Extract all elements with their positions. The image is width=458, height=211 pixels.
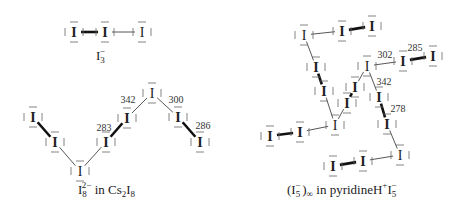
bond-length-label: 342 xyxy=(121,94,136,105)
bond-length-label: 286 xyxy=(196,120,211,131)
iodine-atom: I xyxy=(267,129,272,144)
iodine-atom: I xyxy=(124,111,129,126)
iodine-atom: I xyxy=(400,54,405,69)
caption-i8: I82− in Cs2I8 xyxy=(78,180,136,199)
iodine-atom: I xyxy=(360,154,365,169)
iodine-atom: I xyxy=(197,135,202,150)
iodine-atom: I xyxy=(71,25,76,40)
bond-length-label: 342 xyxy=(377,76,392,87)
iodine-atom: I xyxy=(333,118,338,133)
iodine-atom: I xyxy=(30,110,35,125)
iodine-atom: I xyxy=(384,117,389,132)
bond-thin xyxy=(338,109,343,119)
bond-thick xyxy=(381,104,385,118)
iodine-atom: I xyxy=(376,90,381,105)
bond-length-label: 302 xyxy=(378,49,393,60)
iodine-atom: I xyxy=(102,25,107,40)
bond-length-label: 300 xyxy=(169,94,184,105)
bond-thin xyxy=(307,126,328,130)
iodine-atom: I xyxy=(352,80,357,95)
bond-thin xyxy=(60,147,76,165)
iodine-atom: I xyxy=(175,110,180,125)
bond-thin xyxy=(358,72,363,81)
bond-length-label: 285 xyxy=(408,42,423,53)
iodine-atom: I xyxy=(365,59,370,74)
caption-i3: I3− xyxy=(96,46,105,65)
iodine-atom: I xyxy=(52,135,57,150)
bond-thick xyxy=(111,123,123,136)
bond-length-label: 283 xyxy=(97,122,112,133)
bond-thin xyxy=(390,130,398,148)
bond-thick xyxy=(183,122,196,136)
polyiodide-diagram: IIIIIIIIIIIIIIIIIIIIIIIIIIIII 2833423002… xyxy=(0,0,458,211)
bond-thin xyxy=(306,42,313,61)
iodine-atom: I xyxy=(78,164,83,179)
iodine-atom: I xyxy=(313,60,318,75)
iodine-atom: I xyxy=(140,25,145,40)
iodine-atom: I xyxy=(302,28,307,43)
caption-i5-chain: (I5−)∞ in pyridineH+I5− xyxy=(287,180,397,199)
iodine-atom: I xyxy=(430,49,435,64)
iodine-atom: I xyxy=(103,135,108,150)
iodine-atom: I xyxy=(330,159,335,174)
iodine-atom: I xyxy=(339,24,344,39)
bond-thin xyxy=(370,156,393,160)
iodine-atom: I xyxy=(297,125,302,140)
iodine-atom: I xyxy=(321,84,326,99)
iodine-atom: I xyxy=(344,96,349,111)
bond-thin xyxy=(374,62,396,65)
bond-thin xyxy=(370,73,377,91)
iodine-atom: I xyxy=(369,19,374,34)
bond-thick xyxy=(38,122,51,136)
iodine-atom: I xyxy=(398,148,403,163)
bond-length-label: 278 xyxy=(391,103,406,114)
bond-thin xyxy=(85,147,102,166)
iodine-atom: I xyxy=(150,86,155,101)
bond-thin xyxy=(311,32,335,35)
